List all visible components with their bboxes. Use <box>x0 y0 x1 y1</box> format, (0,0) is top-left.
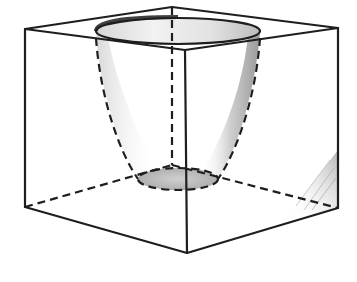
right-face-shading <box>290 150 338 218</box>
diagram-canvas <box>0 0 357 282</box>
cube-bowl-diagram: Cube with a bowl-shaped cavity cut into … <box>0 0 357 282</box>
bowl-rim <box>96 17 260 44</box>
bowl-wall <box>96 33 260 178</box>
